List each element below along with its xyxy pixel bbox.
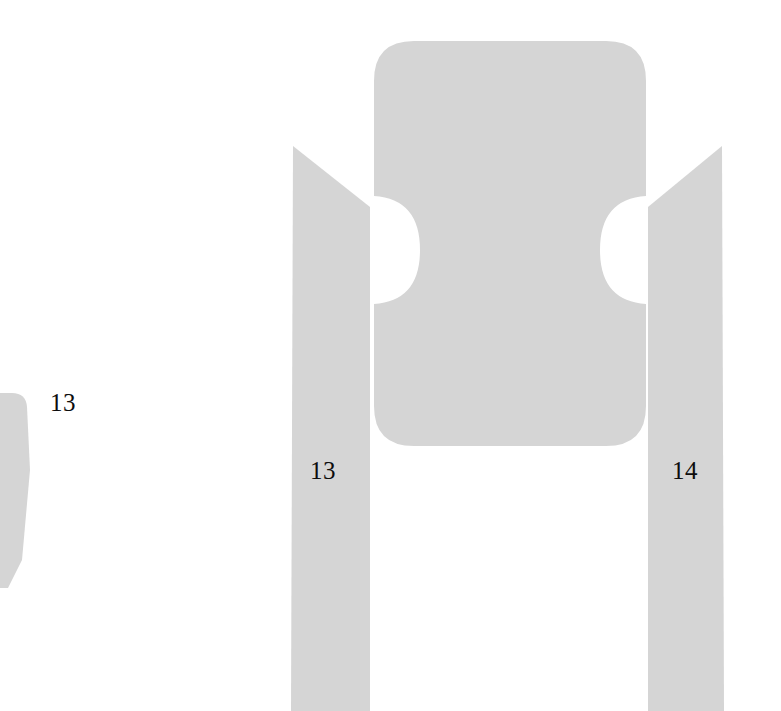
reference-numeral-right-rail: 14 [672,458,698,483]
right-rail-shape [648,146,724,711]
reference-numeral-left-fragment: 13 [50,390,76,415]
reference-numeral-left-rail: 13 [310,458,336,483]
left-rail-shape [291,146,370,711]
figure-drawing [0,0,781,711]
patent-figure-canvas: 13 13 14 [0,0,781,711]
center-body-shape [374,41,646,446]
left-partial-fragment-shape [0,393,30,588]
